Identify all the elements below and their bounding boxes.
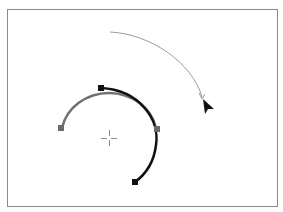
rotated-end-anchor[interactable] xyxy=(132,179,138,185)
original-end-anchor[interactable] xyxy=(154,126,160,132)
rotated-start-anchor[interactable] xyxy=(98,85,104,91)
illustration-svg xyxy=(0,0,283,212)
original-start-anchor[interactable] xyxy=(58,125,64,131)
illustration-canvas xyxy=(0,0,283,212)
